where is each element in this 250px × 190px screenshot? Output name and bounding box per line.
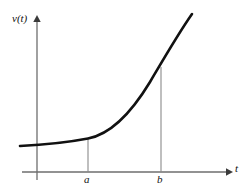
velocity-curve xyxy=(20,14,192,146)
x-axis-label: t xyxy=(235,163,238,174)
x-axis-arrowhead xyxy=(226,168,233,176)
x-tick-label-b: b xyxy=(157,174,163,185)
velocity-time-graph-figure: v(t) t a b xyxy=(0,0,250,190)
graph-canvas xyxy=(0,0,250,190)
x-tick-label-a: a xyxy=(84,174,90,185)
y-axis-label: v(t) xyxy=(12,13,27,24)
y-axis-arrowhead xyxy=(33,15,40,22)
